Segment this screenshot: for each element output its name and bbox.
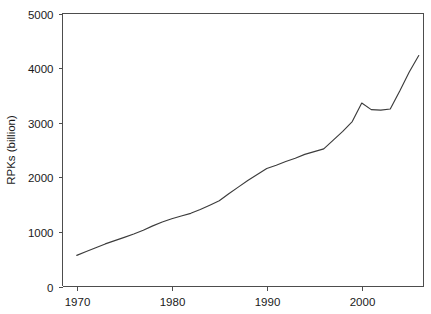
x-tick-label: 2000 <box>350 296 376 308</box>
x-tick-label: 1980 <box>160 296 186 308</box>
x-tick-label: 1970 <box>65 296 91 308</box>
y-tick-label: 3000 <box>28 118 54 130</box>
y-tick-label: 4000 <box>28 63 54 75</box>
line-chart: 010002000300040005000 1970198019902000 R… <box>0 0 431 314</box>
y-tick-label: 5000 <box>28 9 54 21</box>
y-tick-label: 1000 <box>28 227 54 239</box>
y-tick-label: 0 <box>47 282 53 294</box>
chart-container: 010002000300040005000 1970198019902000 R… <box>0 0 431 314</box>
x-tick-label: 1990 <box>255 296 281 308</box>
chart-background <box>0 0 431 314</box>
y-tick-label: 2000 <box>28 172 54 184</box>
y-axis-title: RPKs (billion) <box>5 115 17 185</box>
